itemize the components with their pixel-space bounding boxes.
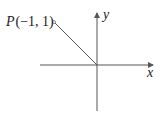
x-axis-label: x — [146, 65, 154, 80]
segment-p-origin — [54, 22, 97, 65]
y-axis-label: y — [101, 7, 110, 22]
coordinate-diagram: P(−1, 1) x y — [0, 0, 165, 119]
point-p-label: P(−1, 1) — [5, 14, 54, 30]
